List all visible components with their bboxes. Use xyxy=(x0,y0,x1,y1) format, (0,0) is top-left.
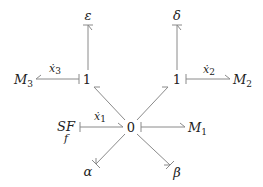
label-beta: β xyxy=(172,165,181,180)
junction-zero: 0 xyxy=(127,120,135,135)
flow-label-x3: ẋ3 xyxy=(49,62,61,76)
label-m1: M1 xyxy=(187,120,207,137)
label-epsilon: ε xyxy=(85,8,92,23)
flow-label-x1: ẋ1 xyxy=(94,110,106,124)
bond-zero-to-alpha xyxy=(92,134,125,168)
bond-zero-to-beta xyxy=(137,134,174,169)
bond-graph-diagram: 0 1 1 ε δ M3 M2 M1 SF f α β ẋ3 ẋ2 ẋ1 xyxy=(0,0,263,187)
bond-zero-to-m1 xyxy=(141,122,185,132)
bond-zero-to-one-right xyxy=(137,87,168,120)
bond-one-right-to-delta xyxy=(172,25,182,70)
label-delta: δ xyxy=(173,8,181,23)
label-m2: M2 xyxy=(232,72,252,89)
junction-one-left: 1 xyxy=(83,72,91,87)
label-m3: M3 xyxy=(13,72,33,89)
label-alpha: α xyxy=(84,164,93,179)
bond-one-left-to-epsilon xyxy=(83,25,93,70)
flow-label-x2: ẋ2 xyxy=(203,63,215,77)
junction-one-right: 1 xyxy=(173,72,181,87)
